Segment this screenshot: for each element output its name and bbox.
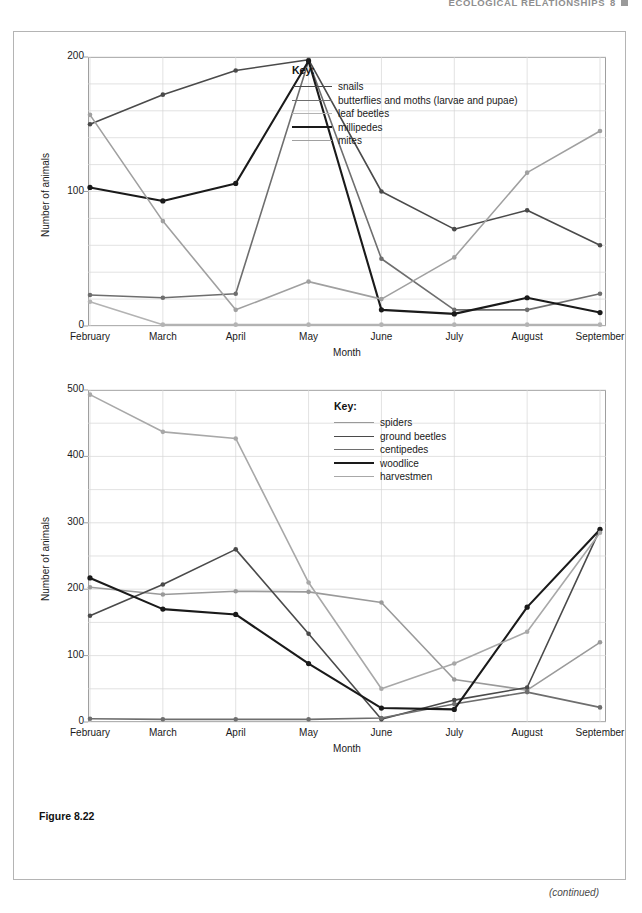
data-point <box>88 585 93 590</box>
data-point <box>452 677 457 682</box>
data-point <box>598 129 603 134</box>
data-point <box>306 279 311 284</box>
data-point <box>160 607 165 612</box>
data-point <box>525 690 530 695</box>
legend-label: millipedes <box>338 122 382 133</box>
running-head-chapter: 8 <box>610 0 616 8</box>
legend-item: harvestmen <box>334 470 446 484</box>
data-point <box>452 311 457 316</box>
data-point <box>88 293 93 298</box>
chart-legend: Key:snailsbutterflies and moths (larvae … <box>292 64 518 148</box>
page-frame: 0100200FebruaryMarchAprilMayJuneJulyAugu… <box>13 31 626 880</box>
chart-upper: 0100200FebruaryMarchAprilMayJuneJulyAugu… <box>14 32 627 362</box>
legend-item: mites <box>292 134 518 148</box>
legend-swatch-line-icon <box>292 113 332 114</box>
legend-label: woodlice <box>380 458 419 469</box>
y-axis-title: Number of animals <box>40 517 51 601</box>
legend-item: ground beetles <box>334 430 446 444</box>
y-axis-tick-label: 0 <box>54 319 84 330</box>
series-line-ground-beetles <box>90 529 600 719</box>
data-point <box>525 170 530 175</box>
data-point <box>525 208 530 213</box>
data-point <box>598 291 603 296</box>
running-head: ECOLOGICAL RELATIONSHIPS 8 <box>449 0 628 8</box>
continued-note: (continued) <box>549 887 599 898</box>
data-point <box>452 322 457 327</box>
legend-swatch-line-icon <box>292 126 332 128</box>
data-point <box>306 631 311 636</box>
x-axis-tick-label: September <box>555 727 642 738</box>
data-point <box>525 322 530 327</box>
y-axis-tick-label: 200 <box>54 50 84 61</box>
data-point <box>161 717 166 722</box>
legend-swatch-line-icon <box>334 436 374 437</box>
series-line-spiders <box>90 587 600 690</box>
legend-item: woodlice <box>334 457 446 471</box>
x-axis-title: Month <box>88 743 606 754</box>
data-point <box>306 717 311 722</box>
data-point <box>598 705 603 710</box>
data-point <box>88 716 93 721</box>
y-axis-tick-label: 400 <box>54 449 84 460</box>
data-point <box>379 322 384 327</box>
legend-label: centipedes <box>380 444 428 455</box>
data-point <box>88 122 93 127</box>
data-point <box>233 308 238 313</box>
data-point <box>233 717 238 722</box>
data-point <box>379 600 384 605</box>
y-axis-tick-label: 200 <box>54 582 84 593</box>
data-point <box>525 308 530 313</box>
data-point <box>379 705 384 710</box>
data-point <box>87 185 92 190</box>
data-point <box>161 219 166 224</box>
legend-swatch-line-icon <box>292 86 332 87</box>
data-point <box>233 547 238 552</box>
data-point <box>598 640 603 645</box>
data-point <box>233 436 238 441</box>
data-point <box>452 661 457 666</box>
legend-title: Key: <box>334 400 446 412</box>
data-point <box>379 307 384 312</box>
data-point <box>306 590 311 595</box>
data-point <box>161 322 166 327</box>
data-point <box>452 255 457 260</box>
series-line-leaf-beetles <box>90 302 600 325</box>
running-head-title: ECOLOGICAL RELATIONSHIPS <box>449 0 606 8</box>
data-point <box>379 716 384 721</box>
y-axis-tick-label: 500 <box>54 383 84 394</box>
legend-label: leaf beetles <box>338 108 389 119</box>
legend-swatch-line-icon <box>334 476 374 477</box>
y-axis-tick-label: 100 <box>54 649 84 660</box>
data-point <box>452 698 457 703</box>
x-axis-title: Month <box>88 347 606 358</box>
legend-label: harvestmen <box>380 471 432 482</box>
data-point <box>87 575 92 580</box>
data-point <box>525 685 530 690</box>
legend-label: spiders <box>380 417 412 428</box>
data-point <box>161 592 166 597</box>
data-point <box>379 256 384 261</box>
legend-item: snails <box>292 80 518 94</box>
data-point <box>233 612 238 617</box>
data-point <box>161 295 166 300</box>
square-marker-icon <box>621 0 628 6</box>
data-point <box>597 310 602 315</box>
data-point <box>306 580 311 585</box>
figure-caption: Figure 8.22 <box>39 810 94 822</box>
legend-swatch-line-icon <box>292 100 332 101</box>
legend-item: butterflies and moths (larvae and pupae) <box>292 94 518 108</box>
data-point <box>88 113 93 118</box>
x-axis-tick-label: September <box>555 331 642 342</box>
data-point <box>233 589 238 594</box>
data-point <box>452 227 457 232</box>
data-point <box>161 582 166 587</box>
y-axis-tick-label: 300 <box>54 516 84 527</box>
data-point <box>525 605 530 610</box>
data-point <box>88 299 93 304</box>
data-point <box>306 58 311 63</box>
data-point <box>160 198 165 203</box>
data-point <box>598 322 603 327</box>
y-axis-tick-label: 0 <box>54 715 84 726</box>
chart-legend: Key:spidersground beetlescentipedeswoodl… <box>334 400 446 484</box>
data-point <box>306 322 311 327</box>
